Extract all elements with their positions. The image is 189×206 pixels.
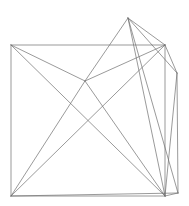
edge-apex-to-right-outer	[128, 18, 177, 73]
wireframe-drawing	[0, 0, 189, 206]
edge-layer	[11, 18, 178, 196]
edge-bl-to-right-lower	[11, 193, 178, 196]
edge-right-outer-to-right-lower	[177, 73, 178, 193]
edge-tr-to-right-outer	[165, 45, 177, 73]
edge-right-outer-to-br	[165, 73, 177, 196]
edge-tl-to-mid	[11, 45, 85, 81]
edge-bl-to-mid	[11, 81, 85, 196]
figure-canvas	[0, 0, 189, 206]
edge-apex-to-tr	[128, 18, 165, 45]
